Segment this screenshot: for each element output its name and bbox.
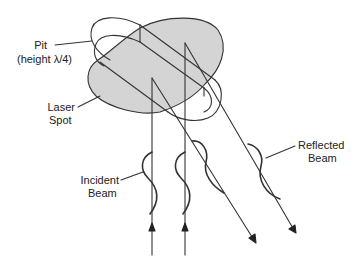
pit-label-line2: (height λ/4) [17,53,72,65]
incident-label-line1: Incident [80,174,119,186]
incident-label-line2: Beam [88,187,117,199]
reflected-label-line2: Beam [308,152,337,164]
reflected-wave-2 [248,144,280,199]
arrowhead-reflected-1 [249,234,256,243]
pit-front-inner [204,88,212,112]
spot-leader [78,96,100,107]
incident-wave-1 [142,152,156,214]
pit-leader [55,41,92,45]
pit-label-line1: Pit [34,39,47,51]
reflected-label-line1: Reflected [298,139,344,151]
optical-pit-diagram: Pit (height λ/4) Laser Spot Incident Bea… [0,0,358,278]
arrowhead-incident-1 [149,223,155,231]
reflected-beam-2 [185,43,294,230]
incident-leader [121,172,143,180]
laser-spot [88,18,223,113]
reflected-beam-1 [152,78,254,240]
arrowhead-incident-2 [182,223,188,231]
incident-wave-2 [175,152,189,214]
arrowhead-reflected-2 [289,225,296,233]
spot-label-line2: Spot [49,114,72,126]
reflected-leader [266,146,295,158]
spot-label-line1: Laser [47,101,75,113]
